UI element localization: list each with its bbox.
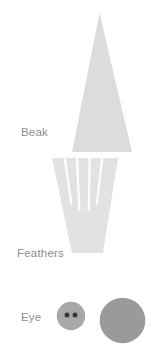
feathers-shape	[46, 158, 126, 254]
eye-label: Eye	[21, 312, 41, 324]
button-hole-left	[65, 313, 70, 318]
eye-button-shape	[56, 301, 86, 331]
beak-shape	[66, 8, 138, 156]
button-hole-right	[73, 313, 78, 318]
beak-label: Beak	[21, 127, 48, 139]
craft-parts-diagram: Beak Feathers Eye	[0, 0, 167, 356]
eye-circle-shape	[99, 297, 146, 344]
